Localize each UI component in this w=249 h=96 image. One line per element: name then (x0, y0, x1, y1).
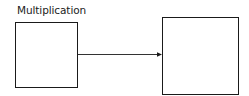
diagram-label: Multiplication (17, 4, 86, 16)
right-box-node (162, 17, 239, 95)
left-box-node (15, 22, 78, 88)
